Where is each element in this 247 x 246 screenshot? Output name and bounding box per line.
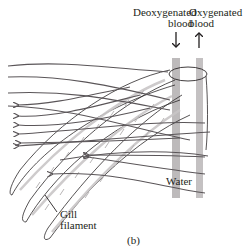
vessel-sheath [206,76,208,150]
water-label: Water [166,176,192,187]
water-line-arrow [88,155,205,157]
gill-label-line2: filament [60,220,97,231]
gill-filament-pointer [45,195,57,212]
oxygenated-blood-label: Oxygenated blood [189,7,247,29]
gill-diagram [0,0,247,246]
water-line [8,64,168,72]
water-line-arrow [18,95,140,116]
oxygenated-label-line2: blood [189,18,247,29]
deoxygenated-label-line2: blood [133,18,193,29]
gill-filament-label: Gill filament [60,209,97,231]
figure-caption: (b) [127,235,140,246]
deoxygenated-blood-label: Deoxygenated blood [133,7,193,29]
